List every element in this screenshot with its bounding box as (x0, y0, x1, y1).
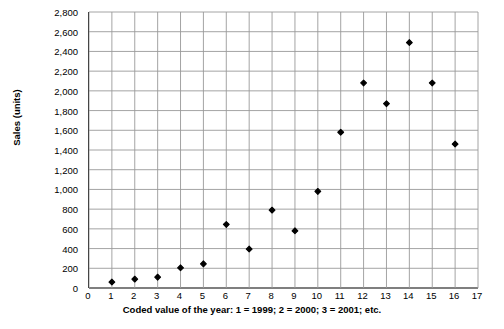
x-tick-label: 12 (357, 290, 368, 301)
data-point-marker (361, 80, 367, 86)
y-tick-label: 400 (62, 243, 78, 254)
data-point-marker (178, 265, 184, 271)
x-tick-label: 14 (403, 290, 414, 301)
x-tick-label: 16 (449, 290, 460, 301)
y-tick-label: 600 (62, 223, 78, 234)
data-point-marker (429, 80, 435, 86)
x-tick-label: 1 (108, 290, 113, 301)
data-point-marker (155, 274, 161, 280)
x-tick-label: 3 (154, 290, 159, 301)
data-point-marker (132, 276, 138, 282)
x-tick-label: 9 (291, 290, 296, 301)
gridlines-horizontal (89, 12, 478, 288)
y-tick-label: 2,600 (54, 26, 78, 37)
x-tick-label: 5 (200, 290, 205, 301)
x-tick-label: 8 (268, 290, 273, 301)
y-axis-tick-labels: 02004006008001,0001,2001,4001,6001,8002,… (30, 0, 82, 329)
data-point-marker (223, 222, 229, 228)
plot-area (88, 12, 477, 288)
y-tick-label: 1,200 (54, 164, 78, 175)
data-point-marker (406, 40, 412, 46)
x-tick-label: 0 (85, 290, 90, 301)
x-tick-label: 10 (312, 290, 323, 301)
y-tick-label: 2,000 (54, 85, 78, 96)
y-tick-label: 800 (62, 204, 78, 215)
x-tick-label: 15 (426, 290, 437, 301)
y-tick-label: 1,600 (54, 125, 78, 136)
y-tick-label: 1,800 (54, 105, 78, 116)
data-point-marker (109, 279, 115, 285)
y-tick-label: 0 (73, 283, 78, 294)
data-point-marker (452, 141, 458, 147)
x-axis-title: Coded value of the year: 1 = 1999; 2 = 2… (0, 304, 504, 315)
data-point-marker (384, 101, 390, 107)
scatter-chart: Sales (units) 02004006008001,0001,2001,4… (0, 0, 504, 329)
y-axis-title: Sales (units) (11, 58, 22, 178)
x-tick-label: 4 (177, 290, 182, 301)
y-tick-label: 2,400 (54, 46, 78, 57)
x-tick-label: 6 (223, 290, 228, 301)
x-tick-label: 11 (335, 290, 345, 301)
x-tick-label: 7 (246, 290, 251, 301)
x-tick-label: 13 (380, 290, 391, 301)
data-point-marker (246, 246, 252, 252)
y-tick-label: 1,400 (54, 145, 78, 156)
y-tick-label: 2,200 (54, 66, 78, 77)
x-tick-label: 2 (131, 290, 136, 301)
data-point-marker (269, 207, 275, 213)
y-tick-label: 1,000 (54, 184, 78, 195)
data-point-marker (201, 261, 207, 267)
y-tick-label: 200 (62, 263, 78, 274)
x-tick-label: 17 (472, 290, 483, 301)
plot-svg (89, 12, 478, 288)
y-tick-label: 2,800 (54, 7, 78, 18)
